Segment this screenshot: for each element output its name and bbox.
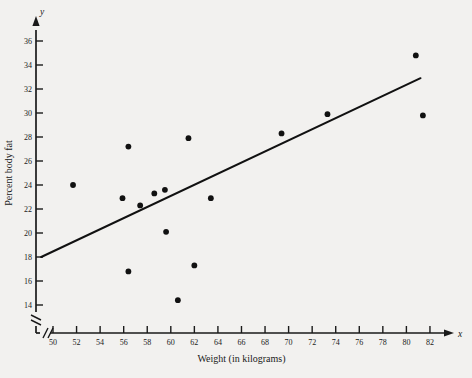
x-axis-tick-label: 76 xyxy=(355,338,363,347)
y-axis-tick-label: 14 xyxy=(24,301,32,310)
y-axis-tick-label: 20 xyxy=(24,229,32,238)
data-point xyxy=(70,182,76,188)
x-axis-tick-label: 66 xyxy=(237,338,245,347)
data-point xyxy=(163,229,169,235)
y-axis-tick-label: 24 xyxy=(24,181,32,190)
y-axis-break-mark xyxy=(31,315,41,325)
regression-line xyxy=(41,78,420,257)
plot-canvas: y141618202224262830323436Percent body fa… xyxy=(0,0,472,378)
y-axis-tick-label: 28 xyxy=(24,133,32,142)
x-axis-tick-label: 52 xyxy=(73,338,81,347)
data-point xyxy=(162,187,168,193)
y-axis-tick-label: 16 xyxy=(24,277,32,286)
data-point xyxy=(420,113,426,119)
x-axis-variable-label: x xyxy=(457,329,463,339)
y-axis-arrowhead xyxy=(32,16,39,26)
x-axis-tick-label: 70 xyxy=(285,338,293,347)
y-axis-tick-label: 26 xyxy=(24,157,32,166)
data-point xyxy=(186,135,192,141)
x-axis-arrowhead xyxy=(444,329,454,336)
x-axis-tick-label: 58 xyxy=(143,338,151,347)
x-axis-tick-label: 72 xyxy=(308,338,316,347)
y-axis-tick-label: 30 xyxy=(24,109,32,118)
data-point xyxy=(120,195,126,201)
data-point xyxy=(279,131,285,137)
data-point xyxy=(208,195,214,201)
x-axis-tick-label: 54 xyxy=(96,338,104,347)
y-axis-tick-label: 18 xyxy=(24,253,32,262)
scatter-plot-figure: y141618202224262830323436Percent body fa… xyxy=(0,0,472,378)
y-axis-title: Percent body fat xyxy=(3,140,14,206)
y-axis-tick-label: 22 xyxy=(24,205,32,214)
x-axis-tick-label: 82 xyxy=(426,338,434,347)
x-axis-tick-label: 80 xyxy=(402,338,410,347)
y-axis-tick-label: 36 xyxy=(24,37,32,46)
x-axis-tick-label: 78 xyxy=(379,338,387,347)
data-point xyxy=(125,269,131,275)
y-axis-variable-label: y xyxy=(39,7,45,17)
x-axis-tick-label: 50 xyxy=(49,338,57,347)
data-point xyxy=(413,53,419,59)
y-axis-tick-label: 34 xyxy=(24,61,32,70)
x-axis-tick-label: 62 xyxy=(190,338,198,347)
x-axis-tick-label: 64 xyxy=(214,338,222,347)
data-point xyxy=(191,263,197,269)
x-axis-tick-label: 56 xyxy=(120,338,128,347)
data-point xyxy=(125,144,131,150)
x-axis-tick-label: 68 xyxy=(261,338,269,347)
data-point xyxy=(137,203,143,209)
x-axis-title: Weight (in kilograms) xyxy=(197,353,285,365)
x-axis-tick-label: 74 xyxy=(332,338,340,347)
y-axis-tick-label: 32 xyxy=(24,85,32,94)
data-point xyxy=(325,111,331,117)
x-axis-tick-label: 60 xyxy=(167,338,175,347)
data-point xyxy=(151,191,157,197)
data-point xyxy=(175,297,181,303)
